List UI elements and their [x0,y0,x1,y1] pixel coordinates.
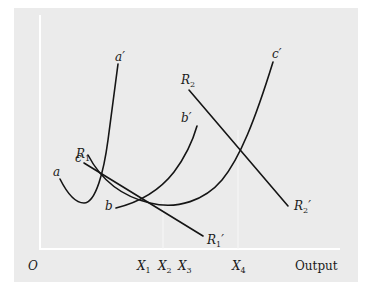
tick-x2: X2 [157,259,172,275]
label-r2-prime: R2′ [293,199,311,215]
line-r1 [84,163,203,236]
x-axis-label: Output [295,259,338,273]
tick-x1: X1 [136,259,151,275]
label-r1-prime: R1′ [206,233,224,249]
label-c-prime: c′ [272,47,282,61]
label-a: a [53,165,60,179]
label-r1: R1 [75,147,90,163]
label-a-prime: a′ [115,50,125,64]
tick-x3: X3 [177,259,192,275]
label-b: b [105,199,113,213]
label-b-prime: b′ [181,111,192,125]
label-r2: R2 [180,73,195,89]
diagram-canvas: a a′ b b′ c c′ R1 R1′ R2 R2′ O X1 X2 X3 … [0,0,379,291]
tick-x4: X4 [231,259,246,275]
origin-label: O [28,259,38,273]
